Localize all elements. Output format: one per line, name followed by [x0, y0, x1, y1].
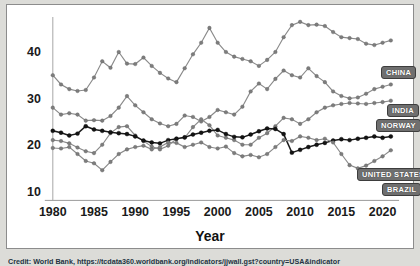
data-point [92, 151, 96, 155]
x-tick-label: 2020 [369, 205, 397, 219]
x-tick-label: 1985 [80, 205, 108, 219]
data-point [51, 146, 55, 150]
data-point [133, 62, 137, 66]
data-point [348, 163, 352, 167]
data-point [183, 114, 187, 118]
data-point [348, 138, 352, 142]
data-point [224, 145, 228, 149]
data-point [117, 125, 121, 129]
data-point [133, 104, 137, 108]
data-point [92, 118, 96, 122]
data-point [59, 113, 63, 117]
x-tick-label: 2010 [286, 205, 314, 219]
data-point [84, 124, 88, 128]
data-point [117, 106, 121, 110]
data-point [183, 135, 187, 139]
data-point [117, 50, 121, 54]
data-point [282, 35, 286, 39]
data-point [282, 132, 286, 136]
data-point [166, 77, 170, 81]
data-point [364, 164, 368, 168]
data-point [249, 153, 253, 157]
data-point [100, 129, 104, 133]
data-point [216, 128, 220, 132]
data-point [175, 80, 179, 84]
data-point [142, 144, 146, 148]
data-point [315, 111, 319, 115]
data-point [298, 148, 302, 152]
data-point [76, 146, 80, 150]
data-point [224, 50, 228, 54]
data-point [265, 58, 269, 62]
series-line-china [53, 22, 391, 91]
data-point [142, 56, 146, 60]
data-point [389, 149, 393, 153]
data-point [257, 82, 261, 86]
data-point [67, 87, 71, 91]
data-point [166, 144, 170, 148]
data-point [76, 113, 80, 117]
data-point [249, 60, 253, 64]
y-tick-label: 10 [27, 185, 41, 199]
data-point [298, 135, 302, 139]
data-point [100, 119, 104, 123]
data-point [191, 53, 195, 57]
data-point [241, 105, 245, 109]
data-point [117, 152, 121, 156]
data-point [348, 97, 352, 101]
data-point [356, 37, 360, 41]
data-point [265, 152, 269, 156]
data-point [125, 148, 129, 152]
data-point [290, 139, 294, 143]
data-point [158, 141, 162, 145]
data-point [100, 143, 104, 147]
data-point [150, 148, 154, 152]
plot-area: 1020304019801985199019952000200520102015… [7, 5, 413, 248]
data-point [84, 159, 88, 163]
data-point [265, 127, 269, 131]
data-point [76, 89, 80, 93]
data-point [290, 73, 294, 77]
data-point [125, 124, 129, 128]
data-point [273, 127, 277, 131]
data-point [125, 62, 129, 66]
data-point [340, 102, 344, 106]
data-point [67, 145, 71, 149]
data-point [364, 92, 368, 96]
credit-text: Credit: World Bank, https://tcdata360.wo… [8, 258, 420, 266]
tick-labels: 1020304019801985199019952000200520102015… [27, 45, 396, 219]
data-point [208, 145, 212, 149]
x-tick-label: 1990 [121, 205, 149, 219]
data-point [232, 151, 236, 155]
data-point [117, 131, 121, 135]
data-point [274, 77, 278, 81]
data-point [150, 140, 154, 144]
data-point [381, 155, 385, 159]
data-point [175, 122, 179, 126]
data-point [241, 57, 245, 61]
data-point [356, 102, 360, 106]
data-point [249, 143, 253, 147]
data-point [315, 23, 319, 27]
data-point [290, 151, 294, 155]
data-point [339, 137, 343, 141]
data-point [109, 130, 113, 134]
data-point [307, 23, 311, 27]
series-label-brazil: BRAZIL [382, 183, 420, 196]
data-point [323, 137, 327, 141]
data-point [216, 41, 220, 45]
series-label-united-states: UNITED STATES [357, 168, 420, 181]
data-point [208, 26, 212, 30]
data-point [125, 132, 129, 136]
data-point [240, 135, 244, 139]
chart-card: 1020304019801985199019952000200520102015… [6, 4, 414, 249]
data-point [183, 145, 187, 149]
x-tick-label: 1995 [163, 205, 191, 219]
data-point [372, 134, 376, 138]
data-point [290, 23, 294, 27]
data-point [241, 143, 245, 147]
data-point [59, 83, 63, 87]
data-point [282, 116, 286, 120]
data-point [51, 129, 55, 133]
data-point [381, 136, 385, 140]
